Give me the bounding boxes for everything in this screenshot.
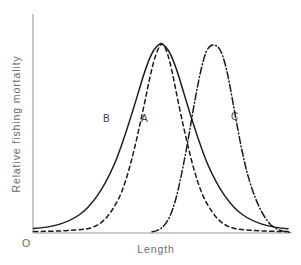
curve-a [34, 44, 289, 232]
origin-label: O [22, 237, 30, 249]
relative-fishing-mortality-chart: B A C Length Relative fishing mortality … [0, 0, 301, 265]
chart-axes [33, 14, 292, 233]
curve-b [34, 44, 289, 229]
curve-label-b: B [103, 113, 110, 124]
curve-label-a: A [141, 113, 148, 124]
curve-label-c: C [231, 111, 239, 122]
x-axis-title: Length [137, 243, 175, 255]
y-axis-title: Relative fishing mortality [10, 55, 22, 192]
chart-figure: B A C Length Relative fishing mortality … [0, 0, 301, 265]
